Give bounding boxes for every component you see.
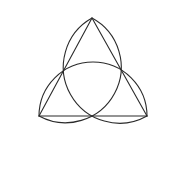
- equilateral-triangle: [39, 18, 147, 116]
- semicircle-bottom: [39, 62, 147, 116]
- triangle-semicircles-diagram: [0, 0, 182, 182]
- semicircle-right: [63, 18, 147, 123]
